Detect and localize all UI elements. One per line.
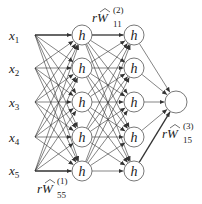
edge-input-hidden1 (35, 68, 78, 161)
hidden2-node: h (124, 92, 144, 112)
svg-text:h: h (79, 164, 86, 179)
edge-input-hidden1 (35, 35, 73, 62)
hidden1-node: h (72, 92, 92, 112)
svg-text:h: h (131, 164, 138, 179)
svg-text:15: 15 (183, 135, 193, 145)
svg-text:11: 11 (113, 19, 122, 29)
weight-label-w1: rW (1) 55 (37, 176, 68, 200)
input-label-x1: x1 (8, 28, 19, 45)
svg-text:(2): (2) (113, 5, 124, 15)
svg-text:h: h (131, 95, 138, 110)
svg-text:h: h (79, 130, 86, 145)
network-canvas: hhhhhhhhhh x1 x2 x3 x4 x5 rW (1) 55 rW (… (0, 0, 202, 204)
svg-text:55: 55 (57, 190, 67, 200)
edge-input-hidden1 (35, 41, 73, 68)
svg-text:h: h (131, 28, 138, 43)
svg-text:h: h (131, 61, 138, 76)
svg-text:(3): (3) (183, 121, 194, 131)
hidden1-node: h (72, 161, 92, 181)
hidden1-node: h (72, 58, 92, 78)
svg-text:h: h (79, 61, 86, 76)
edge-input-hidden1 (35, 137, 73, 165)
input-label-x3: x3 (8, 95, 20, 112)
weight-label-w2: rW (2) 11 (92, 5, 124, 29)
hidden1-node: h (72, 25, 92, 45)
edge-input-hidden1 (35, 35, 78, 127)
nodes: hhhhhhhhhh (72, 25, 187, 181)
svg-text:rW: rW (92, 10, 109, 25)
svg-text:h: h (131, 130, 138, 145)
edge-input-hidden1 (35, 45, 78, 137)
neural-network-diagram: hhhhhhhhhh x1 x2 x3 x4 x5 rW (1) 55 rW (… (0, 0, 202, 204)
svg-text:h: h (79, 95, 86, 110)
edge-input-hidden1 (35, 74, 73, 102)
edge-input-hidden1 (35, 143, 73, 171)
input-labels: x1 x2 x3 x4 x5 (8, 28, 20, 180)
edge-input-hidden1 (35, 35, 79, 161)
output-node (165, 91, 187, 113)
edge-input-hidden1 (35, 78, 78, 171)
edges (35, 35, 170, 171)
edge-input-hidden1 (35, 45, 79, 171)
weight-label-w3: rW (3) 15 (162, 121, 194, 145)
hidden2-node: h (124, 58, 144, 78)
svg-text:(1): (1) (57, 176, 68, 186)
svg-text:rW: rW (37, 181, 54, 196)
hidden2-node: h (124, 127, 144, 147)
input-label-x4: x4 (8, 130, 20, 147)
edge-hidden2-output (142, 74, 167, 94)
input-label-x5: x5 (8, 163, 20, 180)
hidden1-node: h (72, 127, 92, 147)
svg-text:h: h (79, 28, 86, 43)
hidden2-node: h (124, 161, 144, 181)
input-label-x2: x2 (8, 61, 19, 78)
hidden2-node: h (124, 25, 144, 45)
svg-text:rW: rW (162, 126, 179, 141)
